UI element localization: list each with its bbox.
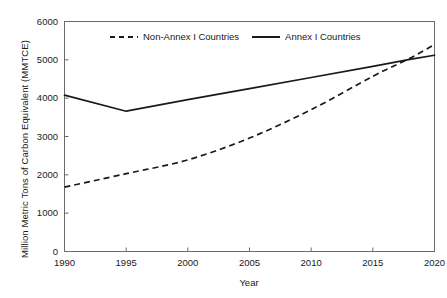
x-axis-tick-label: 1995: [116, 258, 137, 268]
series-line-annex-i: [65, 55, 435, 111]
legend-entry: Non-Annex I Countries: [110, 31, 239, 42]
x-axis-tick-label: 2015: [362, 258, 383, 268]
x-axis-tick-label: 2005: [239, 258, 260, 268]
x-axis-tick-label: 1990: [54, 258, 75, 268]
legend-entry: Annex I Countries: [252, 31, 361, 42]
x-axis-tick-label: 2020: [424, 258, 445, 268]
chart-legend: Non-Annex I CountriesAnnex I Countries: [110, 31, 361, 42]
x-axis-tick-label: 2000: [177, 258, 198, 268]
legend-swatch-dashed: [110, 36, 138, 38]
axis-tick-marks: [65, 22, 435, 252]
x-axis-tick-labels: 1990199520002005201020152020: [0, 258, 447, 272]
plot-area: [0, 0, 447, 298]
legend-label: Annex I Countries: [285, 31, 361, 42]
legend-swatch-solid: [252, 36, 280, 38]
chart-figure: Million Metric Tons of Carbon Equivalent…: [0, 0, 447, 298]
plot-frame: [65, 22, 435, 252]
legend-label: Non-Annex I Countries: [143, 31, 239, 42]
x-axis-tick-label: 2010: [301, 258, 322, 268]
x-axis-title: Year: [64, 277, 434, 288]
